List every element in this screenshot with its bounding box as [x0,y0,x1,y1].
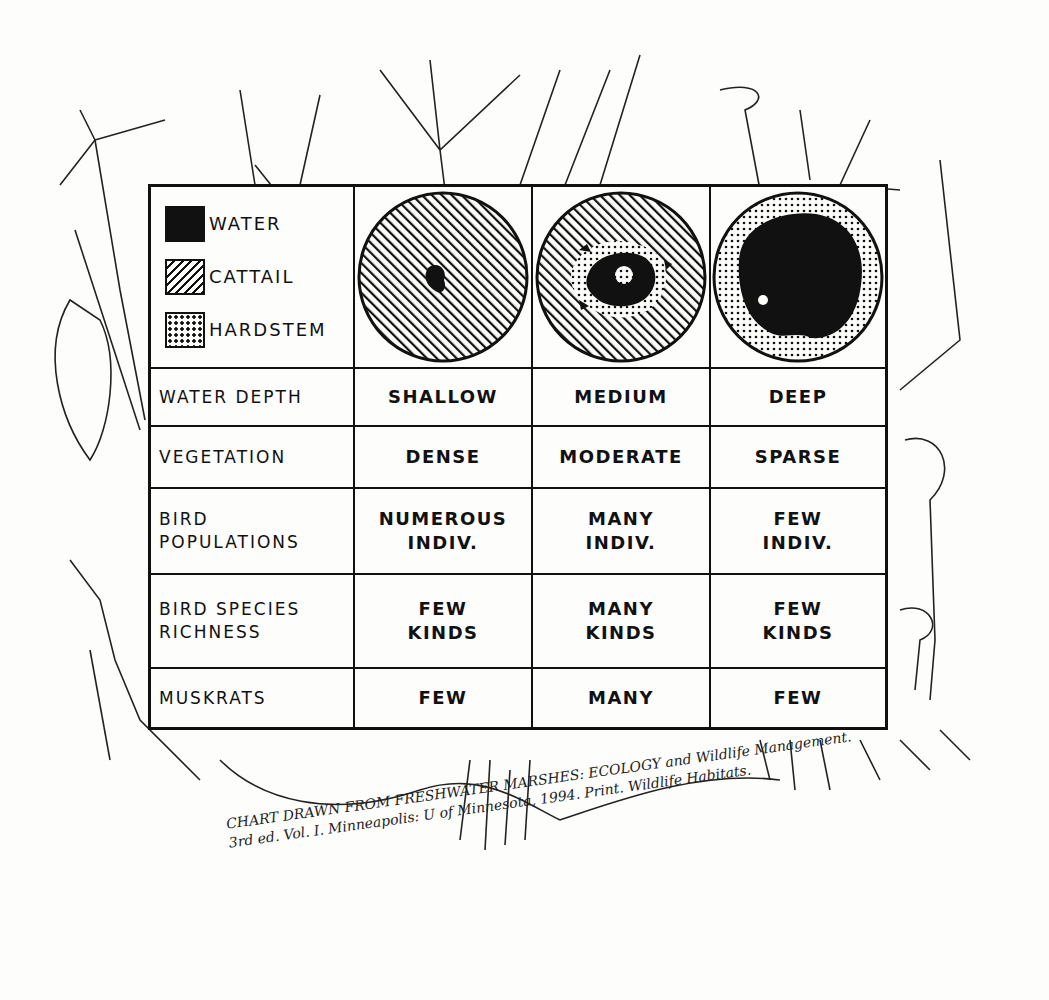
cell-water-depth-shallow: SHALLOW [355,369,533,427]
row-label-bird-species-richness: BIRD SPECIES RICHNESS [151,575,355,669]
row-label-vegetation: VEGETATION [151,427,355,489]
deep-marsh-circle [711,187,885,369]
legend-item-cattail: CATTAIL [165,259,294,295]
cell-water-depth-medium: MEDIUM [533,369,711,427]
cell-vegetation-medium: MODERATE [533,427,711,489]
deep-marsh-diagram-icon [711,190,885,364]
shallow-marsh-circle [355,187,533,369]
cell-vegetation-deep: SPARSE [711,427,885,489]
cell-species-richness-medium: MANY KINDS [533,575,711,669]
legend-item-water: WATER [165,206,282,242]
cell-vegetation-shallow: DENSE [355,427,533,489]
cell-bird-populations-medium: MANY INDIV. [533,489,711,575]
cell-muskrats-medium: MANY [533,669,711,727]
marsh-comparison-chart: WATER CATTAIL HARDSTEM [148,184,888,730]
cell-water-depth-deep: DEEP [711,369,885,427]
row-label-water-depth: WATER DEPTH [151,369,355,427]
medium-marsh-circle [533,187,711,369]
cell-species-richness-deep: FEW KINDS [711,575,885,669]
legend-item-hardstem: HARDSTEM [165,312,327,348]
cell-bird-populations-deep: FEW INDIV. [711,489,885,575]
cell-species-richness-shallow: FEW KINDS [355,575,533,669]
row-label-muskrats: MUSKRATS [151,669,355,727]
water-swatch-icon [165,206,205,242]
shallow-marsh-diagram-icon [356,190,530,364]
hardstem-swatch-icon [165,312,205,348]
cattail-swatch-icon [165,259,205,295]
legend: WATER CATTAIL HARDSTEM [151,187,355,369]
cell-muskrats-shallow: FEW [355,669,533,727]
cell-muskrats-deep: FEW [711,669,885,727]
row-label-bird-populations: BIRD POPULATIONS [151,489,355,575]
cell-bird-populations-shallow: NUMEROUS INDIV. [355,489,533,575]
medium-marsh-diagram-icon [534,190,708,364]
